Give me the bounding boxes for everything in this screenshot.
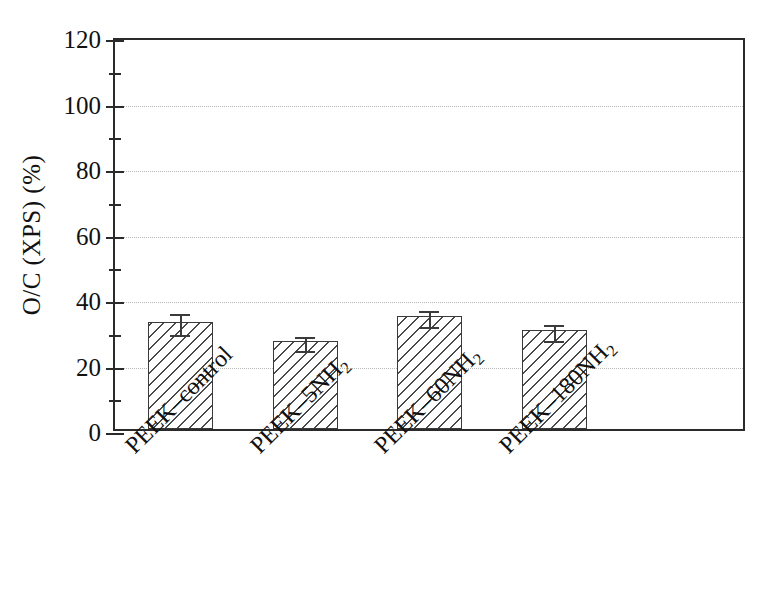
error-bar-cap-top — [170, 314, 190, 316]
x-axis-tick-labels: PEEK–controlPEEK–5NH2PEEK–60NH2PEEK–180N… — [0, 440, 762, 590]
y-tick-minor — [109, 400, 121, 402]
y-tick-label: 100 — [64, 92, 102, 120]
y-tick-minor — [109, 73, 121, 75]
error-bar-stem — [180, 314, 182, 337]
y-tick-major — [106, 237, 124, 239]
y-gridline — [115, 302, 743, 303]
y-axis-title: O/C (XPS) (%) — [18, 155, 46, 316]
chart-figure: O/C (XPS) (%) 020406080100120 PEEK–contr… — [0, 0, 762, 590]
y-gridline — [115, 171, 743, 172]
y-gridline — [115, 106, 743, 107]
y-tick-major — [106, 368, 124, 370]
y-axis-title-container: O/C (XPS) (%) — [8, 0, 56, 470]
y-tick-minor — [109, 204, 121, 206]
error-bar-cap-top — [419, 311, 439, 313]
error-bar-cap-bottom — [170, 335, 190, 337]
y-tick-major — [106, 302, 124, 304]
error-bar-cap-bottom — [419, 327, 439, 329]
error-bar-cap-bottom — [544, 341, 564, 343]
y-tick-major — [106, 106, 124, 108]
error-bar-cap-bottom — [295, 351, 315, 353]
y-tick-label: 120 — [64, 26, 102, 54]
y-tick-minor — [109, 335, 121, 337]
y-tick-major — [106, 171, 124, 173]
y-tick-label: 40 — [76, 288, 101, 316]
y-tick-label: 80 — [76, 157, 101, 185]
y-tick-major — [106, 433, 124, 435]
y-tick-label: 20 — [76, 354, 101, 382]
y-tick-minor — [109, 138, 121, 140]
y-tick-label: 60 — [76, 223, 101, 251]
y-gridline — [115, 237, 743, 238]
y-tick-major — [106, 40, 124, 42]
error-bar-cap-top — [544, 325, 564, 327]
error-bar-cap-top — [295, 337, 315, 339]
y-tick-minor — [109, 269, 121, 271]
